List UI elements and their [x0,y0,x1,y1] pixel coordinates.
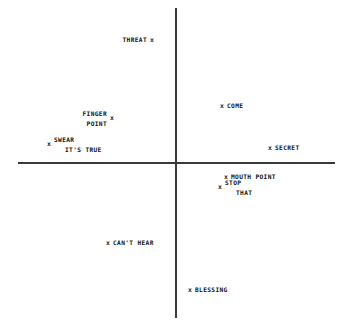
point-marker-icon: x [220,103,224,110]
point-label: THREAT [123,35,147,45]
point-label: BLESSING [195,285,228,295]
point-label: CAN'T HEAR [113,238,154,248]
point-marker-icon: x [268,145,272,152]
point-marker-icon: x [110,115,114,122]
scatter-plot: xTHREATxCOMExFINGERPOINTxSWEARIT'S TRUEx… [0,0,342,329]
point-marker-icon: x [218,184,222,191]
point-label: FINGERPOINT [76,109,107,128]
point-marker-icon: x [106,240,110,247]
y-axis [175,8,177,318]
point-label: STOPTHAT [225,178,252,197]
point-label: COME [227,101,243,111]
point-marker-icon: x [188,287,192,294]
point-label: SECRET [275,143,299,153]
point-label: SWEARIT'S TRUE [54,135,102,154]
point-marker-icon: x [47,141,51,148]
point-marker-icon: x [150,37,154,44]
